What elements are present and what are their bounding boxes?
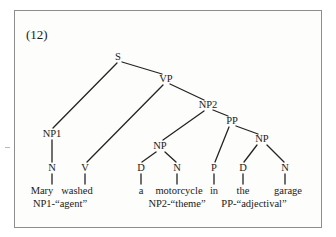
tree-node-v: V (81, 163, 89, 174)
tree-edge-NP2-NPa (163, 111, 204, 140)
tree-node-d: D (239, 163, 247, 174)
tree-node-vp: VP (159, 74, 172, 85)
tree-edge-NPb-N3 (267, 145, 284, 162)
tree-node-np1: NP1 (43, 129, 62, 140)
tree-node-s: S (115, 52, 121, 63)
theta-role-np1-agent-: NP1-“agent” (33, 199, 87, 210)
tree-edge-NPa-D1 (142, 152, 156, 162)
figure-page: (12) SVPNP2PPNP1NPNPNVDNPDN Marywashedam… (0, 0, 336, 237)
tree-node-n: N (281, 163, 289, 174)
theta-role-np2-theme-: NP2-“theme” (148, 199, 205, 210)
tree-edge-NPa-N2 (165, 152, 176, 162)
terminal-word-washed: washed (61, 186, 93, 197)
tree-node-p: P (211, 163, 217, 174)
tree-node-d: D (137, 163, 145, 174)
tree-edge-VP-NP2 (170, 84, 204, 100)
tree-edge-S-VP (122, 62, 162, 74)
terminal-word-garage: garage (274, 186, 302, 197)
tree-node-np: NP (153, 141, 166, 152)
tree-node-pp: PP (226, 116, 238, 127)
tree-edge-VP-V (87, 85, 163, 162)
terminal-word-motorcycle: motorcycle (155, 186, 202, 197)
example-number: (12) (26, 28, 48, 41)
tree-edge-PP-P (215, 127, 229, 162)
tree-node-n: N (48, 163, 56, 174)
terminal-word-the: the (237, 186, 250, 197)
tree-edge-S-NP1 (53, 63, 117, 128)
terminal-word-in: in (210, 186, 218, 197)
tree-edge-NPb-D2 (244, 145, 257, 162)
tree-node-n: N (173, 163, 181, 174)
theta-role-pp-adjectival-: PP-“adjectival” (221, 199, 286, 210)
tree-node-np: NP (255, 134, 268, 145)
tree-node-np2: NP2 (199, 100, 218, 111)
terminal-word-mary: Mary (31, 186, 54, 197)
scan-speck (5, 147, 10, 148)
terminal-word-a: a (139, 186, 144, 197)
